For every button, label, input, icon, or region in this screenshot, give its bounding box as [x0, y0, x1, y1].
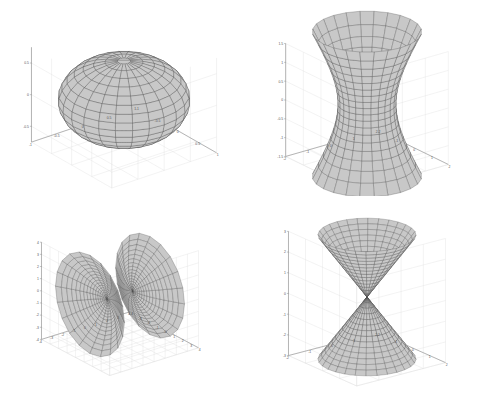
axis-tick-label: 0: [82, 125, 84, 129]
axis-tick-label: 2: [37, 265, 39, 269]
elliptic-cone-surface: [318, 218, 416, 297]
axis-tick-label: 1: [353, 137, 355, 141]
plot-canvas: 1.510.50-0.5-1-1.5210-1-2-2-1012: [243, 0, 485, 196]
axis-tick-label: -1: [283, 313, 286, 317]
axis-tick-label: 1: [429, 355, 431, 359]
axis-tick-label: -3: [139, 317, 142, 321]
axis-tick-label: -1: [308, 350, 311, 354]
hyperboloid-one-sheet-surface: [313, 11, 422, 196]
axis-tick-label: 0: [177, 130, 179, 134]
axis-tick-label: 0.5: [278, 80, 283, 84]
axis-tick-label: 0: [284, 292, 286, 296]
axis-tick-label: -1: [306, 150, 309, 154]
axis-tick-label: -1: [395, 139, 398, 143]
axis-tick-label: -1: [156, 326, 159, 330]
axis-tick-label: 1.5: [278, 42, 283, 46]
axis-tick-label: -2: [61, 333, 64, 337]
axis-tick-label: 4: [37, 241, 39, 245]
axis-tick-label: -1: [72, 329, 75, 333]
axis-tick-label: 0: [84, 326, 86, 330]
plot-hyperboloid-two-sheets: 43210-1-2-3-443210-1-2-3-4-4-3-2-101234: [0, 197, 242, 393]
axis-tick-label: -4: [130, 312, 133, 316]
axis-tick-label: -1: [280, 136, 283, 140]
axis-tick-label: 0: [331, 344, 333, 348]
axis-tick-label: -2: [283, 157, 286, 161]
plot-canvas: 0.50-0.510.50-0.5-1-1-0.500.51: [0, 0, 242, 196]
axis-tick-label: 3: [37, 253, 39, 257]
axis-tick-label: 2: [449, 165, 451, 169]
axis-tick-label: -2: [377, 130, 380, 134]
axis-tick-label: 3: [284, 230, 286, 234]
plot-elliptic-cone: 3210-1-2-3210-1-2-2-1012: [243, 197, 485, 393]
axis-tick-label: 1: [95, 323, 97, 327]
axis-tick-label: 0: [330, 144, 332, 148]
axis-tick-label: 1: [281, 61, 283, 65]
axis-tick-label: 1: [284, 271, 286, 275]
quadric-surfaces-figure: 0.50-0.510.50-0.5-1-1-0.500.51 1.510.50-…: [0, 0, 485, 393]
axis-tick-label: -2: [283, 333, 286, 337]
axis-tick-label: -1: [29, 143, 32, 147]
axis-tick-label: 1: [173, 335, 175, 339]
axis-tick-label: 4: [199, 348, 201, 352]
axis-tick-label: -0.5: [23, 125, 29, 129]
axis-tick-label: 0: [281, 98, 283, 102]
axis-tick-label: -2: [286, 356, 289, 360]
axis-tick-label: -1: [136, 107, 139, 111]
axis-tick-label: -4: [39, 340, 42, 344]
axis-tick-label: 1: [431, 156, 433, 160]
axis-tick-label: 0.5: [195, 142, 200, 146]
axis-tick-label: 3: [117, 316, 119, 320]
axis-tick-label: -3: [50, 336, 53, 340]
plot-ellipsoid: 0.50-0.510.50-0.5-1-1-0.500.51: [0, 0, 242, 196]
axis-tick-label: -0.5: [277, 117, 283, 121]
axis-tick-label: 0: [37, 289, 39, 293]
axis-tick-label: 2: [182, 339, 184, 343]
axis-tick-label: 2: [446, 363, 448, 367]
axis-tick-label: 0.5: [24, 61, 29, 65]
axis-tick-label: 0: [165, 330, 167, 334]
axis-tick-label: -3: [36, 326, 39, 330]
axis-tick-label: -2: [36, 313, 39, 317]
axis-tick-label: -1: [36, 301, 39, 305]
axis-tick-label: -2: [147, 321, 150, 325]
axis-tick-label: 0: [412, 348, 414, 352]
axis-tick-label: 1: [353, 339, 355, 343]
elliptic-cone-surface: [318, 297, 416, 376]
axis-tick-label: -0.5: [54, 134, 60, 138]
axis-tick-label: 1: [217, 153, 219, 157]
hyperboloid-two-sheets-surface: [55, 252, 124, 357]
axis-tick-label: 0: [413, 148, 415, 152]
axis-tick-label: -0.5: [155, 119, 161, 123]
axis-tick-label: -2: [377, 333, 380, 337]
axis-tick-label: -1: [394, 340, 397, 344]
axis-tick-label: 2: [284, 250, 286, 254]
axis-tick-label: 2: [106, 319, 108, 323]
ellipsoid-surface: [59, 51, 190, 148]
axis-tick-label: 1: [37, 277, 39, 281]
plot-canvas: 43210-1-2-3-443210-1-2-3-4-4-3-2-101234: [0, 197, 242, 393]
plot-hyperboloid-one-sheet: 1.510.50-0.5-1-1.5210-1-2-2-1012: [243, 0, 485, 196]
plot-canvas: 3210-1-2-3210-1-2-2-1012: [243, 197, 485, 393]
axis-tick-label: 0.5: [107, 116, 112, 120]
axis-tick-label: 3: [190, 344, 192, 348]
axis-tick-label: 0: [27, 93, 29, 97]
